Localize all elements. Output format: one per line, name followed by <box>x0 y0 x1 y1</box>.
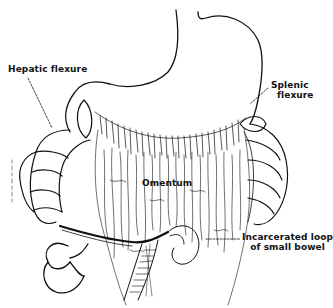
greater-omentum <box>95 128 249 305</box>
incarcerated-loop-label-line1: Incarcerated loop <box>242 232 333 242</box>
incarcerated-loop <box>60 226 199 300</box>
splenic-flexure-label: Splenic flexure <box>271 80 314 100</box>
ascending-colon <box>20 100 92 224</box>
splenic-flexure-leader <box>250 88 268 104</box>
splenic-flexure-label-line2: flexure <box>271 90 314 100</box>
omentum-label: Omentum <box>142 178 192 188</box>
hepatic-flexure-label: Hepatic flexure <box>8 64 87 74</box>
stomach-outline <box>66 10 263 132</box>
incarcerated-loop-label: Incarcerated loop of small bowel <box>242 232 333 252</box>
incarcerated-loop-label-line2: of small bowel <box>242 242 333 252</box>
splenic-flexure-label-line1: Splenic <box>271 80 314 90</box>
hepatic-flexure-leader <box>28 78 52 128</box>
small-bowel-loops <box>44 243 88 292</box>
omentum-upper-edge <box>95 112 246 159</box>
descending-colon <box>240 117 288 225</box>
